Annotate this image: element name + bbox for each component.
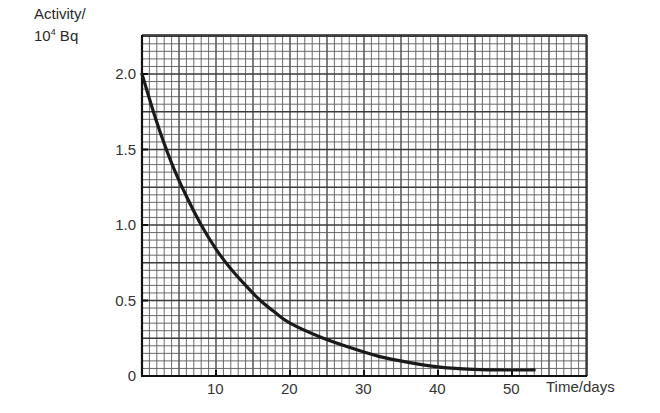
x-tick-label: 40 (429, 380, 446, 397)
x-tick-label: 10 (207, 380, 224, 397)
y-tick-label: 2.0 (115, 65, 136, 82)
x-tick-label: 30 (355, 380, 372, 397)
activity-decay-chart (0, 0, 660, 413)
x-tick-label: 20 (281, 380, 298, 397)
x-tick-label: 50 (503, 380, 520, 397)
y-tick-label: 0 (128, 367, 136, 384)
grid (142, 35, 587, 376)
y-tick-label: 1.5 (115, 141, 136, 158)
x-axis-label: Time/days (546, 378, 615, 395)
y-tick-label: 0.5 (115, 292, 136, 309)
y-tick-label: 1.0 (115, 216, 136, 233)
